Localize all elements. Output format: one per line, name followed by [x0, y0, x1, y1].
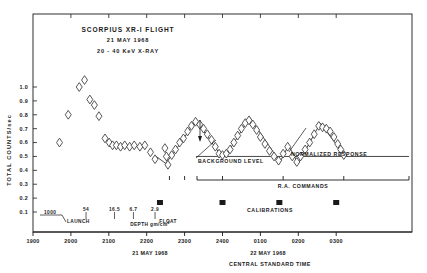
depth-value-label: 2.9	[151, 207, 159, 212]
y-axis-tick-label: 0.6	[20, 139, 28, 145]
normalized-response-label: NORMALIZED RESPONSE	[291, 151, 367, 157]
x-axis-tick-label: 1900	[26, 238, 39, 244]
x-axis-tick-label: 2200	[140, 238, 153, 244]
y-axis-tick-label: 0.3	[20, 181, 28, 187]
ra-commands-label: R.A. COMMANDS	[278, 183, 329, 189]
chart-subtitle: 21 MAY 1968	[107, 37, 149, 43]
calibration-marker	[276, 200, 282, 205]
data-point-marker	[65, 110, 71, 119]
depth-value-label: 54	[83, 207, 89, 212]
calibration-marker	[333, 200, 339, 205]
x-axis-tick-label: 2400	[216, 238, 229, 244]
chart-title: SCORPIUS XR-I FLIGHT	[81, 26, 174, 33]
y-axis-tick-label: 0.9	[20, 98, 28, 104]
data-point-marker	[257, 133, 263, 142]
x-axis-tick-label: 2100	[102, 238, 115, 244]
data-point-marker	[137, 142, 143, 151]
event-marker-arrow	[198, 136, 202, 142]
chart-canvas: 0.10.20.30.40.50.60.70.80.91.0TOTAL COUN…	[0, 0, 427, 273]
data-point-marker	[266, 146, 272, 155]
x-axis-tick-label: 0300	[330, 238, 343, 244]
chart-subtitle-energy: 20 - 40 KeV X-RAY	[97, 48, 159, 54]
x-axis-title: CENTRAL STANDARD TIME	[229, 261, 311, 267]
data-point-marker	[91, 101, 97, 110]
float-label: FLOAT	[159, 219, 177, 224]
y-axis-tick-label: 0.7	[20, 126, 28, 132]
x-axis-tick-label: 0200	[292, 238, 305, 244]
data-point-marker	[162, 144, 168, 153]
y-axis-tick-label: 0.2	[20, 195, 28, 201]
data-point-marker	[96, 112, 102, 121]
y-axis-title: TOTAL COUNTS/sec	[6, 114, 12, 186]
data-point-marker	[165, 160, 171, 169]
background-level-leader	[196, 140, 216, 158]
data-point-marker	[142, 141, 148, 150]
data-point-marker	[262, 140, 268, 149]
data-point-marker	[235, 131, 241, 140]
chart-figure: 0.10.20.30.40.50.60.70.80.91.0TOTAL COUN…	[0, 0, 427, 273]
launch-leader-diagonal	[62, 215, 66, 222]
data-point-marker	[131, 141, 137, 150]
calibration-marker	[220, 200, 226, 205]
y-axis-tick-label: 0.4	[20, 167, 28, 173]
x-axis-tick-label: 0100	[254, 238, 267, 244]
data-point-marker	[285, 142, 291, 151]
background-level-label: BACKGROUND LEVEL	[198, 158, 264, 164]
plot-frame	[33, 14, 412, 232]
y-axis-tick-label: 0.1	[20, 209, 28, 215]
launch-time-label: 1000	[44, 210, 56, 215]
y-axis-tick-label: 0.8	[20, 112, 28, 118]
y-axis-tick-label: 1.0	[20, 84, 28, 90]
data-point-marker	[76, 83, 82, 92]
launch-label: LAUNCH	[67, 219, 90, 224]
data-point-marker	[87, 95, 93, 104]
depth-value-label: 16.5	[109, 207, 120, 212]
data-point-marker	[82, 76, 88, 85]
data-point-marker	[147, 148, 153, 157]
data-point-marker	[209, 135, 215, 144]
data-point-marker	[152, 155, 158, 164]
y-axis-tick-label: 0.5	[20, 153, 28, 159]
data-point-marker	[57, 138, 63, 147]
depth-value-label: 6.7	[129, 207, 137, 212]
calibration-marker	[157, 200, 163, 205]
calibrations-label: CALIBRATIONS	[247, 207, 293, 213]
x-axis-tick-label: 2000	[64, 238, 77, 244]
date-label-left: 21 MAY 1968	[132, 250, 168, 256]
x-axis-tick-label: 2300	[178, 238, 191, 244]
date-label-right: 22 MAY 1968	[250, 250, 286, 256]
